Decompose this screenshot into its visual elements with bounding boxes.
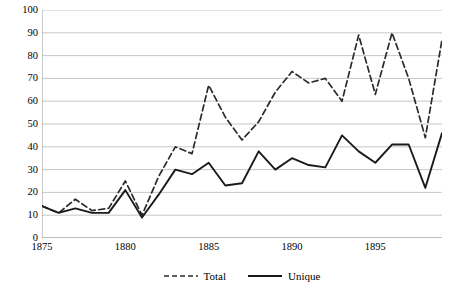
legend-swatch-solid xyxy=(248,271,282,281)
legend-label-unique: Unique xyxy=(288,270,320,282)
legend-label-total: Total xyxy=(204,270,226,282)
y-tick-label: 30 xyxy=(4,165,38,175)
x-tick-label: 1885 xyxy=(198,241,219,253)
y-tick-label: 40 xyxy=(4,142,38,152)
x-tick-label: 1880 xyxy=(115,241,136,253)
chart-container: 1009080706050403020100 18751880188518901… xyxy=(0,0,458,296)
y-tick-label: 70 xyxy=(4,73,38,83)
y-tick-label: 10 xyxy=(4,210,38,220)
x-tick-label: 1890 xyxy=(282,241,303,253)
y-tick-label: 60 xyxy=(4,96,38,106)
plot-area xyxy=(42,10,442,238)
y-tick-label: 20 xyxy=(4,187,38,197)
data-series xyxy=(42,33,442,218)
x-tick-label: 1875 xyxy=(32,241,53,253)
legend-item-total: Total xyxy=(164,270,226,282)
y-tick-label: 80 xyxy=(4,51,38,61)
y-tick-label: 100 xyxy=(4,5,38,15)
series-line-unique xyxy=(42,133,442,217)
chart-svg xyxy=(42,10,442,238)
x-tick-label: 1895 xyxy=(365,241,386,253)
gridlines xyxy=(42,10,442,238)
chart-legend: Total Unique xyxy=(42,266,442,286)
legend-item-unique: Unique xyxy=(248,270,320,282)
y-tick-label: 90 xyxy=(4,28,38,38)
y-tick-label: 50 xyxy=(4,119,38,129)
legend-swatch-dashed xyxy=(164,271,198,281)
y-axis: 1009080706050403020100 xyxy=(0,10,38,238)
x-axis: 18751880188518901895 xyxy=(42,241,442,257)
